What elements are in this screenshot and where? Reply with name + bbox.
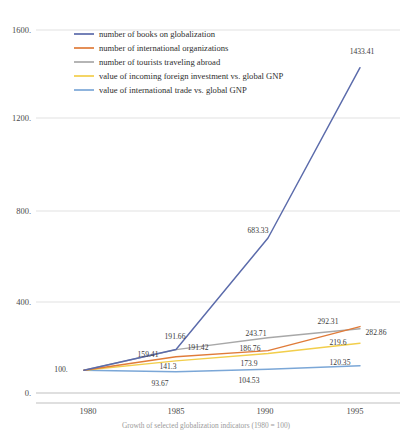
- label-trade-1995: 120.35: [330, 358, 351, 367]
- label-baseline-100: 100.: [54, 365, 67, 374]
- label-books-1990: 683.33: [248, 226, 269, 235]
- series-lines: [84, 68, 360, 372]
- y-tick-0: 0.: [25, 388, 31, 398]
- y-tick-800: 800.: [16, 206, 31, 216]
- x-tick-1985: 1985: [168, 406, 185, 416]
- chart-legend: number of books on globalization number …: [74, 29, 283, 95]
- label-investment-1995: 219.6: [329, 338, 346, 347]
- label-trade-1990: 104.53: [239, 376, 260, 385]
- label-tourists-1985: 191.42: [188, 343, 209, 352]
- y-tick-1600: 1600.: [12, 25, 31, 35]
- y-tick-1200: 1200.: [12, 113, 31, 123]
- label-tourists-1990: 243.71: [246, 329, 267, 338]
- legend-label-books-globalization[interactable]: number of books on globalization: [99, 29, 216, 39]
- legend-label-foreign-investment[interactable]: value of incoming foreign investment vs.…: [99, 71, 283, 81]
- label-orgs-1990: 186.76: [240, 344, 261, 353]
- label-investment-1990: 173.9: [240, 359, 257, 368]
- data-point-labels: 100. 191.66 683.33 1433.41 159.41 186.76…: [54, 47, 386, 388]
- label-investment-1985: 141.3: [159, 362, 176, 371]
- legend-label-international-trade[interactable]: value of international trade vs. global …: [99, 85, 247, 95]
- chart-caption: Growth of selected globalization indicat…: [122, 421, 291, 430]
- label-orgs-1985: 159.41: [138, 350, 159, 359]
- legend-label-international-organizations[interactable]: number of international organizations: [99, 43, 229, 53]
- series-line-foreign-investment: [84, 343, 360, 370]
- y-tick-400: 400.: [16, 297, 31, 307]
- x-tick-1990: 1990: [257, 406, 274, 416]
- y-axis-tick-labels: 1600. 1200. 800. 400. 0.: [12, 25, 31, 398]
- label-books-1985: 191.66: [165, 332, 186, 341]
- x-tick-1980: 1980: [80, 406, 97, 416]
- x-tick-1995: 1995: [347, 406, 364, 416]
- label-trade-1985: 93.67: [151, 379, 168, 388]
- legend-label-tourists-abroad[interactable]: number of tourists traveling abroad: [99, 57, 221, 67]
- chart-svg: 1600. 1200. 800. 400. 0. 100. 191.66 683…: [0, 0, 412, 430]
- label-orgs-1995: 292.31: [318, 317, 339, 326]
- label-tourists-1995: 282.86: [366, 328, 387, 337]
- x-axis-tick-labels: 1980 1985 1990 1995: [80, 406, 364, 416]
- label-books-1995: 1433.41: [350, 47, 375, 56]
- globalization-indicators-chart: 1600. 1200. 800. 400. 0. 100. 191.66 683…: [0, 0, 412, 430]
